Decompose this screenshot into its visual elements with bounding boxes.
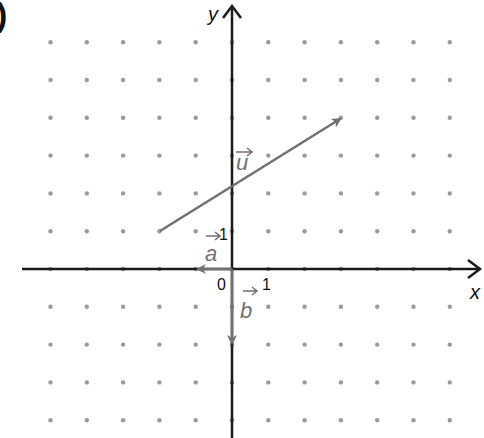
grid-dot xyxy=(448,116,452,120)
grid-dot xyxy=(411,229,415,233)
grid-dot xyxy=(121,229,125,233)
grid-dot xyxy=(302,380,306,384)
grid-dot xyxy=(302,342,306,346)
x-axis xyxy=(22,260,480,278)
y-axis-label: y xyxy=(206,3,219,25)
grid-dot xyxy=(157,342,161,346)
grid-dot xyxy=(194,229,198,233)
x-axis-label: x xyxy=(469,281,481,303)
grid-dot xyxy=(339,380,343,384)
grid-dot xyxy=(194,380,198,384)
grid-dot xyxy=(411,380,415,384)
grid-dot xyxy=(266,116,270,120)
dot-grid xyxy=(48,40,452,422)
grid-dot xyxy=(448,418,452,422)
grid-dot xyxy=(85,229,89,233)
grid-dot xyxy=(411,78,415,82)
grid-dot xyxy=(121,305,125,309)
grid-dot xyxy=(375,191,379,195)
grid-dot xyxy=(157,191,161,195)
vector-a-label: a xyxy=(205,241,217,266)
grid-dot xyxy=(302,418,306,422)
grid-dot xyxy=(157,116,161,120)
origin-label: 0 xyxy=(217,276,226,293)
grid-dot xyxy=(339,191,343,195)
grid-dot xyxy=(339,342,343,346)
grid-dot xyxy=(194,305,198,309)
y-tick-label: 1 xyxy=(219,226,228,243)
grid-dot xyxy=(448,229,452,233)
vector-arrow-icon xyxy=(206,232,220,240)
grid-dot xyxy=(266,342,270,346)
grid-dot xyxy=(302,78,306,82)
grid-dot xyxy=(266,191,270,195)
grid-dot xyxy=(85,116,89,120)
grid-dot xyxy=(121,380,125,384)
grid-dot xyxy=(339,418,343,422)
grid-dot xyxy=(85,153,89,157)
grid-dot xyxy=(375,229,379,233)
grid-dot xyxy=(85,40,89,44)
grid-dot xyxy=(121,78,125,82)
grid-dot xyxy=(448,78,452,82)
grid-dot xyxy=(448,380,452,384)
grid-dot xyxy=(266,78,270,82)
grid-dot xyxy=(157,153,161,157)
grid-dot xyxy=(411,342,415,346)
grid-dot xyxy=(194,191,198,195)
corner-mark: ) xyxy=(0,0,7,33)
grid-dot xyxy=(85,342,89,346)
grid-dot xyxy=(411,191,415,195)
grid-dot xyxy=(48,305,52,309)
grid-dot xyxy=(339,305,343,309)
grid-dot xyxy=(85,305,89,309)
grid-dot xyxy=(266,153,270,157)
grid-dot xyxy=(121,153,125,157)
vector-arrow-icon xyxy=(243,287,257,295)
grid-dot xyxy=(339,78,343,82)
grid-dot xyxy=(375,418,379,422)
grid-dot xyxy=(375,116,379,120)
grid-dot xyxy=(121,418,125,422)
vector-u: u xyxy=(160,119,340,231)
grid-dot xyxy=(85,418,89,422)
grid-dot xyxy=(157,78,161,82)
grid-dot xyxy=(339,153,343,157)
vector-diagram: ) y x 0 1 1 u a b xyxy=(0,0,484,438)
grid-dot xyxy=(266,305,270,309)
grid-dot xyxy=(339,40,343,44)
grid-dot xyxy=(339,229,343,233)
grid-dot xyxy=(411,116,415,120)
grid-dot xyxy=(375,342,379,346)
grid-dot xyxy=(121,191,125,195)
grid-dot xyxy=(266,380,270,384)
grid-dot xyxy=(448,191,452,195)
grid-dot xyxy=(48,229,52,233)
grid-dot xyxy=(375,305,379,309)
grid-dot xyxy=(448,305,452,309)
grid-dot xyxy=(375,380,379,384)
grid-dot xyxy=(266,40,270,44)
grid-dot xyxy=(194,342,198,346)
grid-dot xyxy=(302,153,306,157)
x-tick-label: 1 xyxy=(262,276,271,293)
grid-dot xyxy=(48,116,52,120)
grid-dot xyxy=(85,191,89,195)
grid-dot xyxy=(375,40,379,44)
vector-b-label: b xyxy=(240,298,252,323)
grid-dot xyxy=(411,305,415,309)
grid-dot xyxy=(411,418,415,422)
grid-dot xyxy=(121,116,125,120)
grid-dot xyxy=(157,380,161,384)
grid-dot xyxy=(48,342,52,346)
grid-dot xyxy=(375,78,379,82)
grid-dot xyxy=(85,78,89,82)
y-axis xyxy=(223,6,241,438)
grid-dot xyxy=(302,116,306,120)
grid-dot xyxy=(302,229,306,233)
grid-dot xyxy=(302,40,306,44)
grid-dot xyxy=(157,305,161,309)
grid-dot xyxy=(48,153,52,157)
grid-dot xyxy=(48,78,52,82)
grid-dot xyxy=(302,305,306,309)
